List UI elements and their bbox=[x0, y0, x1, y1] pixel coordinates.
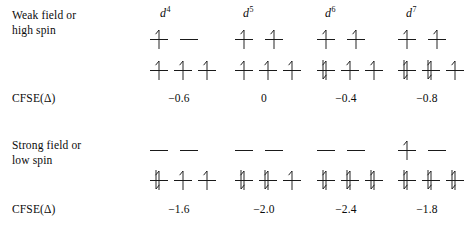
spin-up-arrow-icon bbox=[155, 29, 163, 49]
t2g-orbitals-weak-d5 bbox=[233, 57, 303, 79]
spin-up-arrow-icon bbox=[179, 170, 187, 190]
orbital-up bbox=[257, 57, 279, 79]
spin-down-arrow-icon bbox=[319, 60, 327, 80]
eg-orbitals-strong-d4 bbox=[148, 137, 200, 159]
cfse-value-strong-d5: −2.0 bbox=[235, 203, 293, 215]
orbital-pair bbox=[233, 167, 255, 189]
column-header-superscript: 5 bbox=[250, 5, 254, 14]
cfse-value-weak-d7: −0.8 bbox=[398, 92, 456, 104]
orbital-pair bbox=[396, 167, 418, 189]
orbital-pair bbox=[148, 167, 170, 189]
spin-up-arrow-icon bbox=[288, 60, 296, 80]
eg-orbitals-strong-d7 bbox=[396, 137, 448, 159]
spin-up-arrow-icon bbox=[352, 29, 360, 49]
spin-down-arrow-icon bbox=[319, 170, 327, 190]
orbital-pair bbox=[257, 167, 279, 189]
orbital-up bbox=[396, 137, 418, 159]
spin-up-arrow-icon bbox=[370, 60, 378, 80]
spin-up-arrow-icon bbox=[451, 60, 459, 80]
spin-up-arrow-icon bbox=[179, 60, 187, 80]
spin-up-arrow-icon bbox=[270, 29, 278, 49]
orbital-up bbox=[233, 57, 255, 79]
cfse-value-weak-d5: 0 bbox=[235, 92, 293, 104]
orbital-up bbox=[172, 167, 194, 189]
orbital-up bbox=[315, 26, 337, 48]
cfse-label-strong-field: CFSE(Δ) bbox=[12, 203, 56, 215]
spin-up-arrow-icon bbox=[203, 170, 211, 190]
t2g-orbitals-weak-d7 bbox=[396, 57, 466, 79]
column-header-symbol: d bbox=[243, 6, 249, 20]
cfse-label-weak-field: CFSE(Δ) bbox=[12, 92, 56, 104]
orbital-pair bbox=[420, 167, 442, 189]
t2g-orbitals-strong-d5 bbox=[233, 167, 303, 189]
orbital-up bbox=[172, 57, 194, 79]
spin-up-arrow-icon bbox=[155, 60, 163, 80]
orbital-pair bbox=[315, 57, 337, 79]
spin-down-arrow-icon bbox=[343, 170, 351, 190]
t2g-orbitals-strong-d6 bbox=[315, 167, 385, 189]
orbital-pair bbox=[315, 167, 337, 189]
eg-orbitals-weak-d4 bbox=[148, 26, 200, 48]
orbital-up bbox=[339, 57, 361, 79]
orbital-up bbox=[281, 57, 303, 79]
spin-up-arrow-icon bbox=[403, 29, 411, 49]
column-header-symbol: d bbox=[325, 6, 331, 20]
orbital-up bbox=[363, 57, 385, 79]
spin-up-arrow-icon bbox=[203, 60, 211, 80]
section-label-strong-field: Strong field or low spin bbox=[12, 138, 81, 167]
orbital-up bbox=[396, 26, 418, 48]
orbital-empty bbox=[178, 26, 200, 48]
column-header-symbol: d bbox=[406, 6, 412, 20]
orbital-up bbox=[148, 26, 170, 48]
t2g-orbitals-weak-d6 bbox=[315, 57, 385, 79]
column-header-d5: d5 bbox=[243, 6, 254, 21]
orbital-up bbox=[196, 167, 218, 189]
eg-orbitals-weak-d6 bbox=[315, 26, 367, 48]
spin-down-arrow-icon bbox=[424, 60, 432, 80]
orbital-up bbox=[233, 26, 255, 48]
spin-up-arrow-icon bbox=[433, 29, 441, 49]
cfse-value-weak-d4: −0.6 bbox=[150, 92, 208, 104]
column-header-d7: d7 bbox=[406, 6, 417, 21]
orbital-up bbox=[426, 26, 448, 48]
spin-up-arrow-icon bbox=[288, 170, 296, 190]
column-header-superscript: 4 bbox=[167, 5, 171, 14]
t2g-orbitals-strong-d4 bbox=[148, 167, 218, 189]
spin-down-arrow-icon bbox=[448, 170, 456, 190]
column-header-symbol: d bbox=[160, 6, 166, 20]
spin-down-arrow-icon bbox=[400, 170, 408, 190]
orbital-empty bbox=[263, 137, 285, 159]
spin-down-arrow-icon bbox=[400, 60, 408, 80]
orbital-empty bbox=[178, 137, 200, 159]
column-header-superscript: 7 bbox=[413, 5, 417, 14]
orbital-empty bbox=[148, 137, 170, 159]
spin-up-arrow-icon bbox=[240, 29, 248, 49]
column-header-d6: d6 bbox=[325, 6, 336, 21]
cfse-value-strong-d7: −1.8 bbox=[398, 203, 456, 215]
eg-orbitals-strong-d6 bbox=[315, 137, 367, 159]
spin-down-arrow-icon bbox=[424, 170, 432, 190]
eg-orbitals-weak-d7 bbox=[396, 26, 448, 48]
column-header-d4: d4 bbox=[160, 6, 171, 21]
spin-up-arrow-icon bbox=[240, 60, 248, 80]
orbital-up bbox=[345, 26, 367, 48]
orbital-up bbox=[281, 167, 303, 189]
spin-down-arrow-icon bbox=[152, 170, 160, 190]
section-label-weak-field: Weak field or high spin bbox=[12, 8, 76, 37]
spin-up-arrow-icon bbox=[264, 60, 272, 80]
orbital-pair bbox=[363, 167, 385, 189]
spin-up-arrow-icon bbox=[322, 29, 330, 49]
orbital-pair bbox=[420, 57, 442, 79]
orbital-pair bbox=[444, 167, 466, 189]
eg-orbitals-weak-d5 bbox=[233, 26, 285, 48]
orbital-empty bbox=[233, 137, 255, 159]
orbital-up bbox=[196, 57, 218, 79]
t2g-orbitals-strong-d7 bbox=[396, 167, 466, 189]
orbital-up bbox=[148, 57, 170, 79]
cfse-value-strong-d6: −2.4 bbox=[317, 203, 375, 215]
spin-down-arrow-icon bbox=[261, 170, 269, 190]
spin-up-arrow-icon bbox=[403, 140, 411, 160]
orbital-empty bbox=[315, 137, 337, 159]
cfse-value-weak-d6: −0.4 bbox=[317, 92, 375, 104]
